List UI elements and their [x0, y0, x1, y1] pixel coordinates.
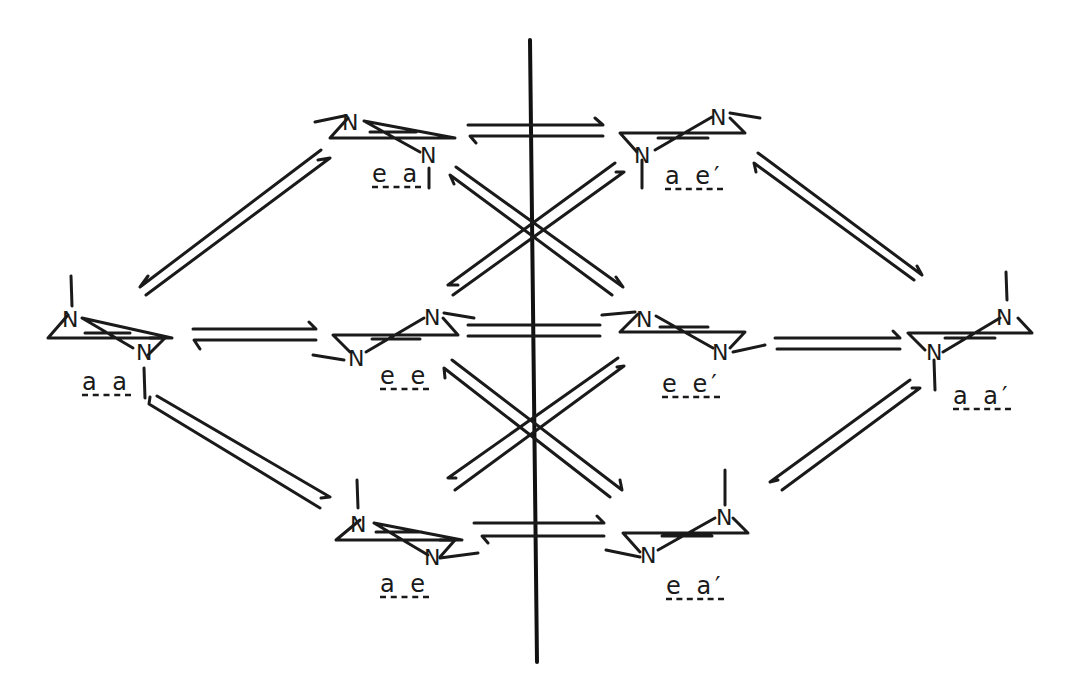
svg-text:N: N — [996, 305, 1012, 330]
svg-text:N: N — [342, 110, 358, 135]
equilibrium-arrow-aa-ae — [149, 396, 330, 508]
equilibrium-arrow-ae-ea-prime — [474, 516, 604, 543]
label-ae: a e — [380, 570, 429, 598]
svg-text:N: N — [640, 543, 656, 568]
label-ee-prime: e e′ — [662, 370, 721, 398]
equilibrium-arrow-ea-ee-prime — [450, 167, 623, 295]
label-ae-prime: a e′ — [665, 162, 724, 190]
svg-text:N: N — [716, 505, 732, 530]
molecule-ee-prime: N N — [602, 307, 765, 365]
equilibrium-arrow-aa-ee — [193, 322, 316, 349]
equilibrium-arrow-aa-ea — [140, 150, 330, 295]
svg-text:N: N — [424, 305, 440, 330]
svg-text:N: N — [62, 307, 78, 332]
equilibrium-arrow-ee-prime-aa-prime — [775, 331, 900, 349]
equilibrium-diagram: N N N N N N N N N N N N — [0, 0, 1076, 678]
svg-text:N: N — [350, 512, 366, 537]
molecule-ea-prime: N N — [606, 470, 748, 568]
svg-text:N: N — [424, 545, 440, 570]
molecule-ae: N N — [336, 480, 478, 570]
equilibrium-arrow-ee-ae-prime — [448, 163, 624, 295]
equilibrium-arrow-ea-prime-aa-prime — [770, 380, 920, 490]
label-ea: e a — [372, 160, 421, 188]
molecule-aa-prime: N N — [908, 272, 1032, 390]
label-ea-prime: e a′ — [666, 572, 725, 600]
svg-text:N: N — [712, 340, 728, 365]
svg-text:N: N — [136, 340, 152, 365]
label-aa-prime: a a′ — [953, 382, 1012, 410]
mirror-plane-line — [530, 40, 537, 662]
svg-text:N: N — [420, 143, 436, 168]
label-ee: e e — [380, 362, 429, 390]
equilibrium-arrow-ae-prime-aa-prime — [754, 153, 922, 280]
svg-text:N: N — [926, 340, 942, 365]
svg-text:N: N — [348, 346, 364, 371]
label-aa: a a — [82, 368, 131, 396]
equilibrium-arrow-ea-ae-prime — [468, 118, 603, 143]
svg-text:N: N — [710, 105, 726, 130]
diagram-canvas: N N N N N N N N N N N N — [0, 0, 1076, 678]
svg-text:N: N — [634, 143, 650, 168]
svg-text:N: N — [636, 307, 652, 332]
